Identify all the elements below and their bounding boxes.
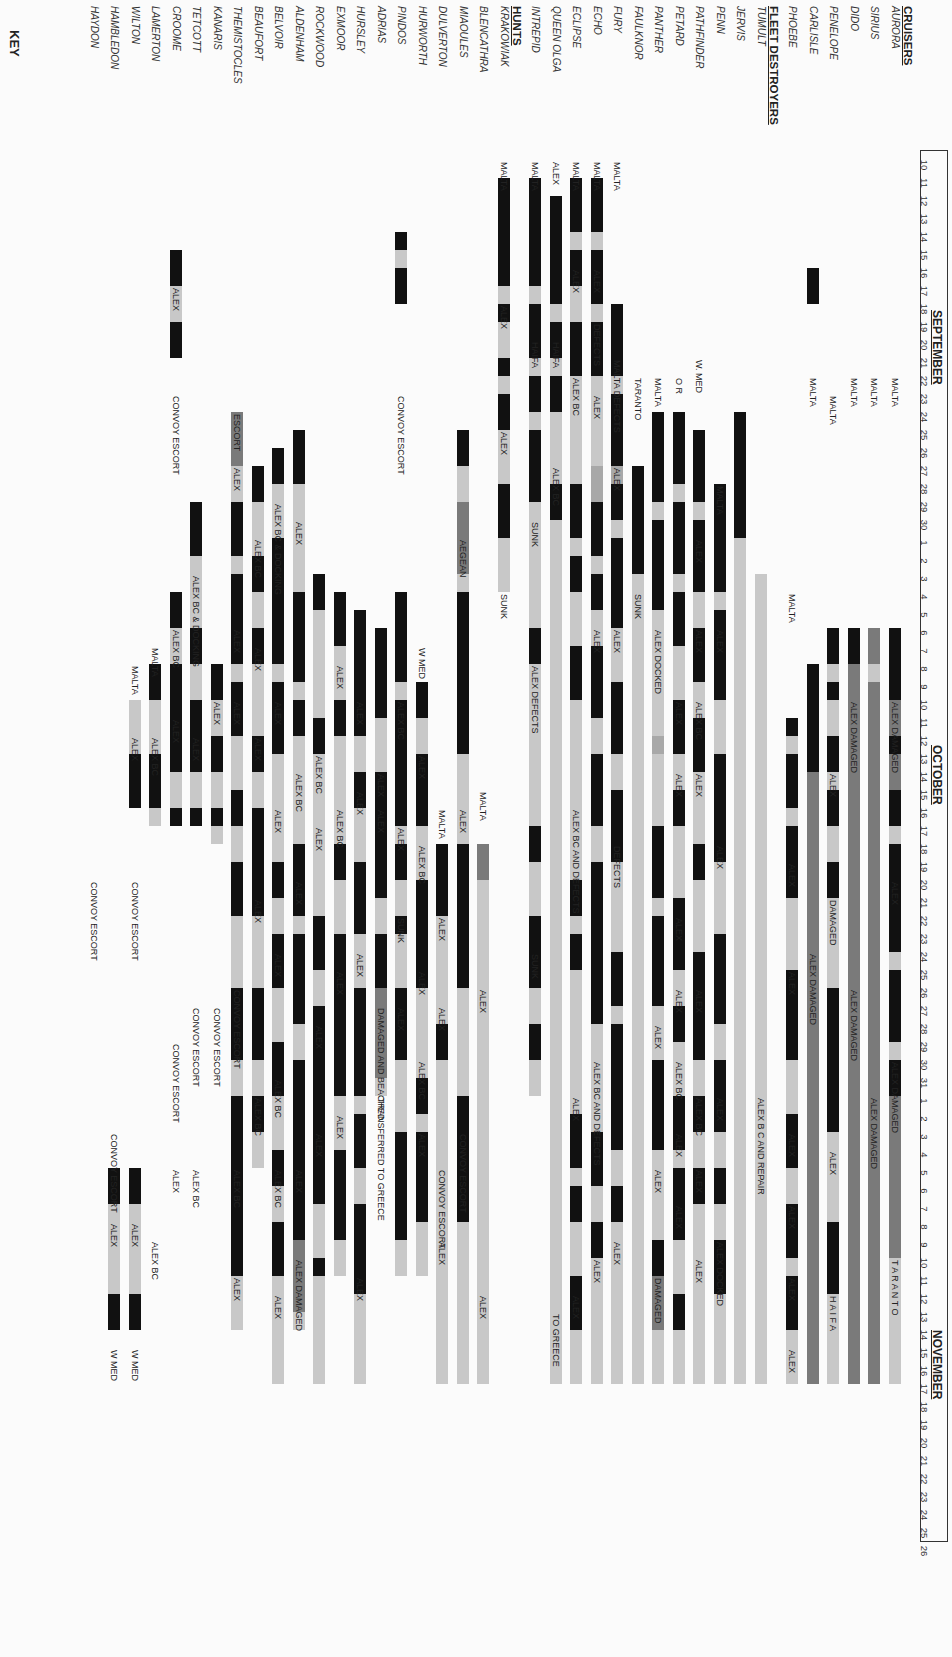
status-bar xyxy=(571,538,583,556)
ship-name: KANARIS xyxy=(212,6,223,50)
day-tick: 25 xyxy=(919,966,930,984)
status-label: ALEX xyxy=(478,1296,490,1319)
status-bar xyxy=(129,1294,141,1330)
status-bar xyxy=(252,1060,264,1096)
status-label: MALTA xyxy=(612,162,624,191)
status-bar xyxy=(673,412,685,484)
status-label: ALEX xyxy=(787,1350,799,1373)
ship-name: DIDO xyxy=(849,6,860,31)
status-bar xyxy=(416,682,428,718)
status-bar xyxy=(293,592,305,682)
status-bar xyxy=(457,988,469,1096)
day-tick: 17 xyxy=(919,822,930,840)
status-bar xyxy=(530,1060,542,1096)
ship-name: FURY xyxy=(613,6,624,33)
status-bar xyxy=(252,1132,264,1168)
status-label: ALEX BC xyxy=(673,1062,685,1100)
status-bar xyxy=(550,304,562,322)
status-bar xyxy=(530,430,542,502)
status-bar xyxy=(498,358,510,376)
status-label: ALEX xyxy=(694,630,706,653)
status-label: ALEX xyxy=(293,522,305,545)
ship-name: JERVIS xyxy=(736,6,747,41)
status-bar xyxy=(787,1258,799,1276)
status-bar xyxy=(416,1222,428,1276)
status-bar xyxy=(714,592,726,610)
status-bar xyxy=(571,1330,583,1384)
day-tick: 13 xyxy=(919,750,930,768)
status-label: ALEX xyxy=(457,810,469,833)
status-bar xyxy=(673,574,685,592)
status-label: ALEX BC xyxy=(396,702,408,740)
status-label: MALTA xyxy=(498,162,510,191)
ship-name: ADRIAS xyxy=(376,6,387,43)
status-bar xyxy=(314,610,326,718)
day-tick: 2 xyxy=(919,1110,930,1128)
status-label: ALEX xyxy=(653,1170,665,1193)
status-label: W MED xyxy=(109,1350,121,1381)
status-label: ALEX BC xyxy=(314,756,326,794)
status-bar xyxy=(293,682,305,700)
status-bar xyxy=(550,196,562,304)
status-label: ALEX xyxy=(694,774,706,797)
status-bar xyxy=(714,1024,726,1060)
status-bar xyxy=(612,952,624,1006)
day-tick: 28 xyxy=(919,480,930,498)
status-bar xyxy=(571,1186,583,1222)
status-bar xyxy=(211,736,223,772)
status-bar xyxy=(591,232,603,250)
ship-name: WILTON xyxy=(130,6,141,44)
status-bar xyxy=(396,268,408,304)
status-label: HAIFA xyxy=(550,342,562,368)
status-bar xyxy=(828,682,840,700)
status-label: ALEX BC xyxy=(170,630,182,668)
status-bar xyxy=(889,952,901,970)
status-bar xyxy=(252,988,264,1060)
status-label: ALEX BC xyxy=(694,702,706,740)
ship-name: BELVOIR xyxy=(274,6,285,49)
status-bar xyxy=(571,934,583,970)
status-bar xyxy=(109,1294,121,1330)
day-tick: 23 xyxy=(919,390,930,408)
status-label: ALEX xyxy=(355,702,367,725)
status-bar xyxy=(591,898,603,1024)
status-label: ALEX xyxy=(673,918,685,941)
status-bar xyxy=(273,1222,285,1276)
status-bar xyxy=(591,862,603,898)
day-tick: 28 xyxy=(919,1020,930,1038)
status-label: O R xyxy=(673,378,685,394)
status-bar xyxy=(591,826,603,862)
day-tick: 15 xyxy=(919,786,930,804)
status-label: ALEX xyxy=(416,756,428,779)
status-bar xyxy=(550,376,562,412)
status-label: DEFECTS xyxy=(612,846,624,888)
status-label: ALEX xyxy=(437,1008,449,1031)
status-bar xyxy=(694,1204,706,1384)
status-bar xyxy=(273,448,285,484)
ship-name: ROCKWOOD xyxy=(315,6,326,67)
status-label: ALEX xyxy=(232,630,244,653)
status-bar xyxy=(314,916,326,970)
status-bar xyxy=(612,1024,624,1150)
status-bar xyxy=(396,880,408,916)
day-tick: 24 xyxy=(919,408,930,426)
status-label: ALEX xyxy=(375,810,387,833)
status-label: ALEX xyxy=(694,990,706,1013)
status-label: ALEX xyxy=(129,738,141,761)
status-bar xyxy=(828,700,840,736)
status-bar xyxy=(396,682,408,700)
day-tick: 20 xyxy=(919,336,930,354)
day-tick: 11 xyxy=(919,714,930,732)
status-bar xyxy=(232,862,244,916)
status-bar xyxy=(673,646,685,700)
status-bar xyxy=(591,556,603,574)
status-label: MALTA xyxy=(807,378,819,407)
day-tick: 9 xyxy=(919,678,930,696)
status-bar xyxy=(787,1060,799,1114)
status-label: ALEX BC xyxy=(293,774,305,812)
status-bar xyxy=(211,826,223,844)
status-bar xyxy=(252,916,264,988)
day-tick: 18 xyxy=(919,300,930,318)
ship-name: DULVERTON xyxy=(438,6,449,67)
day-tick: 29 xyxy=(919,1038,930,1056)
